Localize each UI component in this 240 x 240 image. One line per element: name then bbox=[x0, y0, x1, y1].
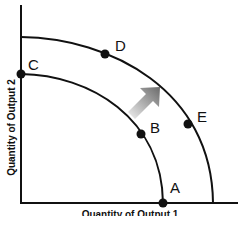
point-e-marker bbox=[184, 120, 193, 129]
outer-frontier-curve bbox=[21, 37, 213, 203]
point-d-label: D bbox=[115, 38, 126, 53]
point-c-marker bbox=[17, 70, 26, 79]
point-d-marker bbox=[101, 50, 110, 59]
x-axis-label: Quantity of Output 1 bbox=[60, 209, 200, 216]
point-b-label: B bbox=[150, 120, 160, 135]
inner-frontier-curve bbox=[21, 74, 163, 203]
point-c-label: C bbox=[28, 57, 39, 72]
point-a-marker bbox=[159, 199, 168, 208]
point-e-label: E bbox=[197, 109, 207, 124]
point-b-marker bbox=[137, 130, 146, 139]
y-axis-label: Quantity of Output 2 bbox=[6, 73, 17, 183]
point-a-label: A bbox=[170, 180, 180, 195]
shift-arrow-icon bbox=[128, 87, 160, 119]
